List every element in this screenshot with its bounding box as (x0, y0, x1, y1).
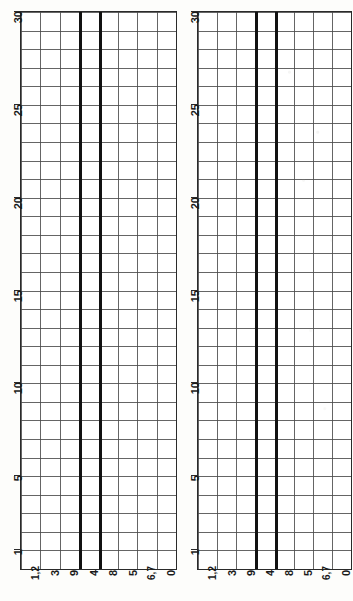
value-axis-tick-label: 15 (189, 290, 201, 302)
category-axis-tick-label: 3 (49, 570, 61, 576)
gridline-vertical-emphasized (275, 12, 278, 569)
value-axis-tick-label: 20 (12, 197, 24, 209)
gridline-vertical (351, 12, 352, 569)
value-axis-tick-mark (14, 475, 20, 476)
value-axis-tick-label: 30 (12, 11, 24, 23)
category-axis-tick-label: 0 (340, 570, 352, 576)
gridline-vertical (294, 12, 295, 569)
value-axis-tick-mark (191, 104, 197, 105)
plot-area-right (197, 11, 352, 570)
value-axis-tick-mark (191, 197, 197, 198)
value-axis-tick-mark (191, 475, 197, 476)
category-axis-tick-label: 5 (127, 570, 139, 576)
category-axis-tick-label: 6,7 (146, 566, 157, 580)
value-axis-tick-label: 30 (189, 11, 201, 23)
category-axis-tick-label: 9 (68, 570, 80, 576)
chart-panel-left: 151015202530 1,2394856,70 (0, 0, 178, 601)
gridline-vertical (313, 12, 314, 569)
gridline-vertical-emphasized (79, 12, 82, 569)
category-axis-tick-label: 3 (226, 570, 238, 576)
gridline-vertical (118, 12, 119, 569)
category-axis-tick-label: 4 (264, 570, 276, 576)
value-axis-tick-mark (191, 549, 197, 550)
value-axis-left: 151015202530 (0, 11, 20, 570)
value-axis-right: 151015202530 (177, 11, 197, 570)
category-axis-tick-label: 6,7 (321, 566, 332, 580)
gridline-vertical-emphasized (99, 12, 102, 569)
gridline-vertical (157, 12, 158, 569)
figure-sheet: 151015202530 1,2394856,70 151015202530 1… (0, 0, 353, 601)
gridline-vertical (60, 12, 61, 569)
value-axis-tick-mark (14, 290, 20, 291)
value-axis-tick-mark (14, 382, 20, 383)
value-axis-tick-mark (191, 382, 197, 383)
category-axis-tick-label: 0 (165, 570, 177, 576)
category-axis-tick-label: 5 (302, 570, 314, 576)
value-axis-tick-label: 20 (189, 197, 201, 209)
category-axis-tick-label: 8 (283, 570, 295, 576)
category-axis-tick-label: 1,2 (207, 566, 218, 580)
value-axis-tick-label: 25 (189, 104, 201, 116)
value-axis-tick-mark (191, 290, 197, 291)
plot-area-left (20, 11, 177, 570)
gridline-vertical-emphasized (255, 12, 258, 569)
category-axis-tick-label: 4 (88, 570, 100, 576)
category-axis-left: 1,2394856,70 (20, 572, 177, 601)
value-axis-tick-mark (14, 104, 20, 105)
value-axis-tick-label: 25 (12, 104, 24, 116)
gridline-vertical (217, 12, 218, 569)
value-axis-tick-mark (14, 11, 20, 12)
value-axis-tick-label: 10 (12, 382, 24, 394)
value-axis-tick-mark (191, 11, 197, 12)
value-axis-tick-mark (14, 197, 20, 198)
category-axis-right: 1,2394856,70 (197, 572, 352, 601)
value-axis-tick-label: 15 (12, 290, 24, 302)
gridline-vertical (40, 12, 41, 569)
category-axis-tick-label: 1,2 (30, 566, 41, 580)
value-axis-tick-label: 10 (189, 382, 201, 394)
gridline-vertical (236, 12, 237, 569)
gridline-vertical (332, 12, 333, 569)
value-axis-tick-mark (14, 549, 20, 550)
chart-panel-right: 151015202530 1,2394856,70 (177, 0, 353, 601)
category-axis-tick-label: 9 (245, 570, 257, 576)
gridline-vertical (137, 12, 138, 569)
category-axis-tick-label: 8 (107, 570, 119, 576)
